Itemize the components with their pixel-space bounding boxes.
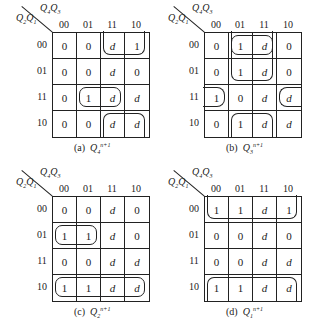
row-variable-label: Q2Q1	[16, 12, 36, 25]
kmap-cell: d	[277, 249, 301, 275]
kmap-cell: 0	[77, 59, 101, 85]
row-header: 10	[34, 281, 50, 292]
column-variable-label: Q4Q3	[192, 166, 212, 179]
kmap-cell: 0	[77, 197, 101, 223]
kmap-cell: d	[253, 249, 277, 275]
row-header: 10	[34, 117, 50, 128]
column-header: 00	[204, 19, 228, 30]
kmap-cell: 0	[53, 33, 77, 59]
kmap-cell: 0	[53, 85, 77, 111]
kmap-cell: d	[125, 85, 149, 111]
column-variable-label: Q4Q3	[40, 166, 60, 179]
kmap-cell: 0	[205, 249, 229, 275]
kmap-panel-a: Q4Q3Q2Q1000111100001111000d100d001dd00dd…	[0, 0, 156, 164]
kmap-cell: d	[101, 59, 125, 85]
kmap-panel-d: Q4Q3Q2Q1000111100001111011d100d000dd11dd…	[152, 164, 308, 328]
row-header: 10	[186, 117, 202, 128]
column-header: 10	[124, 183, 148, 194]
column-variable-label: Q4Q3	[40, 2, 60, 15]
kmap-cell: 0	[77, 111, 101, 137]
column-header: 10	[124, 19, 148, 30]
kmap-panel-c: Q4Q3Q2Q1000111100001111000d011d000dd11dd…	[0, 164, 156, 328]
kmap-cell: 0	[125, 223, 149, 249]
grouping-loop	[207, 277, 297, 301]
kmap-cell: 0	[277, 33, 301, 59]
row-header: 10	[186, 281, 202, 292]
kmap-caption: (d) Q1n+1	[226, 306, 263, 319]
kmap-cell: 0	[229, 249, 253, 275]
row-header: 11	[34, 91, 50, 102]
kmap-caption: (a) Q4n+1	[74, 142, 110, 155]
kmap-cell: 0	[205, 111, 229, 137]
column-header: 01	[228, 19, 252, 30]
row-variable-label: Q2Q1	[168, 176, 188, 189]
kmap-cell: 0	[277, 223, 301, 249]
column-header: 11	[252, 183, 276, 194]
kmap-caption: (b) Q3n+1	[226, 142, 263, 155]
column-variable-label: Q4Q3	[192, 2, 212, 15]
kmap-cell: d	[277, 111, 301, 137]
grouping-loop	[231, 113, 273, 137]
column-header: 01	[76, 19, 100, 30]
row-header: 11	[34, 255, 50, 266]
kmap-cell: 0	[77, 33, 101, 59]
column-header: 01	[76, 183, 100, 194]
grouping-loop	[231, 31, 273, 81]
kmap-cell: 0	[229, 223, 253, 249]
grouping-loop	[203, 87, 225, 107]
kmap-cell: 0	[53, 197, 77, 223]
row-variable-label: Q2Q1	[16, 176, 36, 189]
grouping-loop	[79, 87, 121, 107]
kmap-cell: 0	[53, 59, 77, 85]
kmap-cell: 0	[277, 59, 301, 85]
grouping-loop	[55, 225, 97, 245]
column-header: 00	[52, 19, 76, 30]
column-header: 00	[204, 183, 228, 194]
row-header: 11	[186, 91, 202, 102]
row-header: 00	[34, 39, 50, 50]
grouping-loop	[103, 31, 145, 55]
row-header: 01	[34, 229, 50, 240]
column-header: 00	[52, 183, 76, 194]
kmap-cell: 0	[53, 111, 77, 137]
kmap-cell: 0	[125, 197, 149, 223]
row-header: 01	[186, 65, 202, 76]
grouping-loop	[103, 113, 145, 137]
kmap-caption: (c) Q2n+1	[74, 306, 110, 319]
column-header: 11	[100, 19, 124, 30]
column-header: 11	[252, 19, 276, 30]
grouping-loop	[55, 277, 145, 297]
column-header: 01	[228, 183, 252, 194]
kmap-cell: 0	[125, 59, 149, 85]
kmap-cell: 0	[77, 249, 101, 275]
row-header: 01	[186, 229, 202, 240]
kmap-cell: d	[253, 85, 277, 111]
kmap-cell: 0	[229, 85, 253, 111]
row-header: 00	[34, 203, 50, 214]
column-header: 11	[100, 183, 124, 194]
kmap-cell: 0	[205, 33, 229, 59]
kmap-cell: d	[101, 197, 125, 223]
kmap-cell: d	[125, 249, 149, 275]
grouping-loop	[207, 195, 297, 219]
kmap-cell: 0	[205, 223, 229, 249]
row-header: 01	[34, 65, 50, 76]
kmap-cell: d	[101, 249, 125, 275]
kmap-panel-b: Q4Q3Q2Q1000111100001111001d001d010dd01dd…	[152, 0, 308, 164]
kmap-cell: d	[253, 223, 277, 249]
row-header: 11	[186, 255, 202, 266]
row-header: 00	[186, 203, 202, 214]
kmap-cell: 0	[53, 249, 77, 275]
row-header: 00	[186, 39, 202, 50]
row-variable-label: Q2Q1	[168, 12, 188, 25]
kmap-cell: 0	[205, 59, 229, 85]
column-header: 10	[276, 19, 300, 30]
kmap-cell: d	[101, 223, 125, 249]
grouping-loop	[279, 87, 301, 107]
column-header: 10	[276, 183, 300, 194]
